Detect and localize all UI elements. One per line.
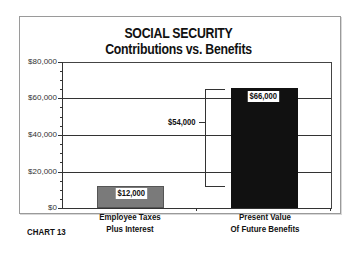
y-minor-tick	[60, 144, 62, 145]
y-minor-tick	[60, 71, 62, 72]
y-minor-tick	[60, 162, 62, 163]
y-tick	[58, 135, 62, 136]
x-category-label: Employee Taxes Plus Interest	[86, 211, 174, 235]
x-label-line: Present Value	[217, 211, 314, 223]
y-tick	[58, 62, 62, 63]
y-tick-label: $40,000	[3, 130, 57, 139]
chart-number: CHART 13	[27, 227, 66, 237]
bar-value-label: $66,000	[248, 91, 279, 102]
y-tick-label: $80,000	[3, 57, 57, 66]
y-tick-label: $0	[3, 203, 57, 212]
chart-title: SOCIAL SECURITY	[32, 24, 325, 41]
y-minor-tick	[60, 181, 62, 182]
y-minor-tick	[60, 199, 62, 200]
difference-bracket	[205, 89, 225, 187]
x-category-label: Present Value Of Future Benefits	[217, 211, 314, 235]
y-tick	[58, 208, 62, 209]
x-tick	[196, 208, 197, 211]
y-minor-tick	[60, 89, 62, 90]
y-tick-label: $60,000	[3, 93, 57, 102]
y-minor-tick	[60, 80, 62, 81]
bar-future-benefits	[231, 88, 298, 208]
difference-label: $54,000	[168, 117, 196, 127]
x-tick	[330, 208, 331, 211]
y-minor-tick	[60, 117, 62, 118]
y-minor-tick	[60, 190, 62, 191]
x-label-line: Of Future Benefits	[217, 223, 314, 235]
y-minor-tick	[60, 107, 62, 108]
y-tick	[58, 172, 62, 173]
y-minor-tick	[60, 153, 62, 154]
chart-subtitle: Contributions vs. Benefits	[32, 40, 325, 57]
x-label-line: Employee Taxes	[86, 211, 174, 223]
y-tick	[58, 98, 62, 99]
x-label-line: Plus Interest	[86, 223, 174, 235]
bracket-pointer	[199, 122, 205, 123]
y-minor-tick	[60, 126, 62, 127]
y-tick-label: $20,000	[3, 167, 57, 176]
y-axis	[62, 62, 63, 208]
bar-value-label: $12,000	[116, 188, 147, 199]
